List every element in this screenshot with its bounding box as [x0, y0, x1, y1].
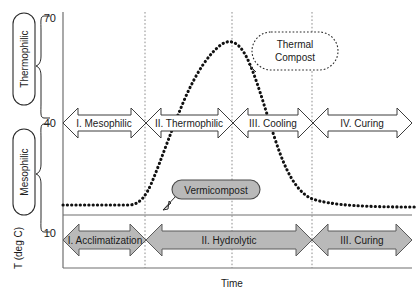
vermicompost-label: Vermicompost [184, 185, 248, 196]
figure-canvas: 70 40 10 Thermophilic Mesophilic T (deg … [0, 0, 419, 299]
thermal-phase-label-2: II. Thermophilic [155, 118, 223, 129]
composting-phase-diagram: 70 40 10 Thermophilic Mesophilic T (deg … [0, 0, 419, 299]
thermal-compost-bubble [252, 32, 338, 70]
y-tick-40: 40 [44, 117, 56, 129]
thermal-phase-arrows: I. Mesophilic II. Thermophilic III. Cool… [63, 108, 412, 138]
thermal-compost-line1: Thermal [277, 39, 314, 50]
range-label-mesophilic-text: Mesophilic [19, 148, 30, 195]
range-label-thermophilic: Thermophilic [13, 13, 35, 105]
vermicompost-phase-arrows: I. Acclimatization II. Hydrolytic III. C… [63, 224, 412, 256]
thermal-compost-callout[interactable]: Thermal Compost [248, 32, 338, 72]
brace-thermophilic [36, 16, 50, 118]
vermi-phase-label-3: III. Curing [340, 235, 383, 246]
range-label-mesophilic: Mesophilic [13, 129, 35, 215]
y-tick-70: 70 [44, 12, 56, 24]
thermal-phase-label-3: III. Cooling [249, 118, 297, 129]
thermal-phase-label-4: IV. Curing [340, 118, 384, 129]
vermi-phase-label-1: I. Acclimatization [68, 235, 142, 246]
vermicompost-callout[interactable]: Vermicompost [163, 180, 260, 210]
y-tick-10: 10 [44, 227, 56, 239]
brace-mesophilic [36, 124, 50, 232]
vermi-phase-label-2: II. Hydrolytic [201, 235, 256, 246]
thermal-phase-label-1: I. Mesophilic [76, 118, 132, 129]
range-label-thermophilic-text: Thermophilic [19, 30, 30, 87]
y-axis-label: T (deg C) [13, 227, 24, 269]
x-axis-label: Time [221, 278, 243, 289]
thermal-compost-line2: Compost [275, 52, 315, 63]
thermal-compost-leader [248, 64, 256, 72]
